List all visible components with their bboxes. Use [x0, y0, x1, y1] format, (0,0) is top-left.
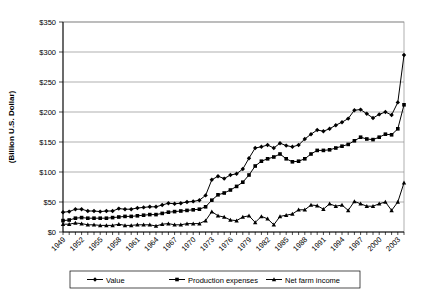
data-point [61, 219, 65, 223]
data-point [278, 152, 282, 156]
data-point [210, 178, 214, 182]
data-point [390, 133, 394, 137]
data-point [67, 218, 71, 222]
line-chart: $0$50$100$150$200$250$300$35019491952195… [0, 0, 422, 302]
data-point [384, 132, 388, 136]
data-point [73, 207, 77, 211]
data-point [353, 139, 357, 143]
data-point [117, 215, 121, 219]
data-point [216, 174, 220, 178]
data-point [321, 129, 325, 133]
data-point [160, 203, 164, 207]
x-tick-label: 1961 [124, 235, 142, 253]
data-point [86, 209, 90, 213]
x-tick-label: 1973 [198, 235, 216, 253]
x-tick-label: 1997 [347, 235, 365, 253]
y-tick-label: $100 [39, 168, 56, 177]
data-point [241, 180, 245, 184]
series-value [61, 53, 406, 215]
data-point [173, 210, 177, 214]
data-point [272, 155, 276, 159]
data-point [315, 149, 319, 153]
data-point [359, 135, 363, 139]
data-point [334, 123, 338, 127]
data-point [123, 207, 127, 211]
data-point [222, 176, 226, 180]
data-point [235, 185, 239, 189]
legend-label: Value [106, 276, 125, 285]
data-point [79, 207, 83, 211]
legend-marker [93, 277, 97, 281]
data-point [129, 207, 133, 211]
data-point [167, 210, 171, 214]
data-point [247, 156, 251, 160]
data-point [396, 100, 400, 104]
data-point [117, 206, 121, 210]
data-point [179, 209, 183, 213]
y-tick-label: $250 [39, 78, 56, 87]
y-tick-label: $200 [39, 108, 56, 117]
data-point [185, 200, 189, 204]
x-tick-label: 1958 [105, 235, 123, 253]
data-point [191, 208, 195, 212]
data-point [123, 215, 127, 219]
x-tick-label: 1982 [254, 235, 272, 253]
data-point [303, 157, 307, 161]
legend-item-value: Value [87, 276, 125, 285]
data-point [328, 148, 332, 152]
data-point [377, 112, 381, 116]
x-tick-label: 1964 [142, 235, 160, 253]
data-point [396, 127, 400, 131]
data-point [290, 145, 294, 149]
data-point [327, 127, 331, 131]
data-point [135, 206, 139, 210]
x-tick-label: 1991 [310, 235, 328, 253]
data-point [266, 157, 270, 161]
data-point [259, 145, 263, 149]
data-point [104, 209, 108, 213]
data-point [160, 212, 164, 216]
data-point [111, 216, 115, 220]
data-point [92, 216, 96, 220]
data-point [297, 159, 301, 163]
data-point [191, 199, 195, 203]
data-point [228, 173, 232, 177]
data-point [253, 146, 257, 150]
y-tick-label: $50 [43, 198, 56, 207]
x-tick-label: 1970 [179, 235, 197, 253]
data-point [247, 173, 251, 177]
data-point [185, 209, 189, 213]
plot-area [63, 22, 404, 232]
x-tick-label: 1955 [86, 235, 104, 253]
data-point [154, 205, 158, 209]
data-point [340, 120, 344, 124]
x-tick-label: 1988 [291, 235, 309, 253]
data-point [61, 210, 65, 214]
data-point [142, 213, 146, 217]
data-point [74, 216, 78, 220]
data-point [340, 144, 344, 148]
data-point [402, 181, 406, 185]
data-point [265, 143, 269, 147]
data-point [136, 214, 140, 218]
data-point [371, 138, 375, 142]
legend-item-net-farm-income: Net farm income [266, 276, 340, 285]
legend-label: Production expenses [188, 276, 258, 285]
data-point [365, 137, 369, 141]
data-point [309, 152, 313, 156]
y-tick-label: $300 [39, 48, 56, 57]
data-point [105, 216, 109, 220]
data-point [110, 209, 114, 213]
data-point [154, 213, 158, 217]
x-tick-label: 1985 [272, 235, 290, 253]
x-tick-label: 2003 [384, 235, 402, 253]
data-point [86, 216, 90, 220]
chart-container: $0$50$100$150$200$250$300$35019491952195… [0, 0, 422, 302]
data-point [377, 135, 381, 139]
data-point [291, 160, 295, 164]
legend-item-production-expenses: Production expenses [169, 276, 258, 285]
data-point [322, 149, 326, 153]
data-point [129, 215, 133, 219]
data-point [141, 205, 145, 209]
x-tick-label: 2000 [365, 235, 383, 253]
